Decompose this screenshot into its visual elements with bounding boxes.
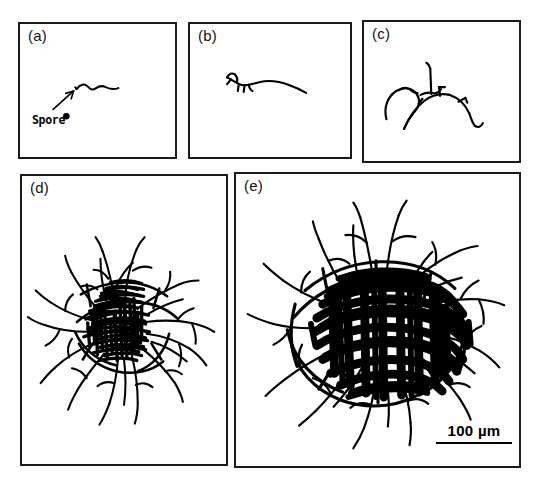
panel-a: (a) Spore [18,22,177,159]
scale-bar-label: 100 µm [448,422,501,439]
panel-c: (c) [362,20,521,163]
spore-annotation-label: Spore [32,113,65,127]
scale-bar-line [436,442,512,444]
panel-a-drawing [20,24,175,157]
panel-e: (e) [234,172,521,468]
panel-c-drawing [364,22,519,161]
scale-bar: 100 µm [436,422,512,444]
panel-b: (b) [188,22,352,159]
fungal-growth-figure: (a) Spore (b) [0,0,542,481]
panel-b-drawing [190,24,350,157]
panel-d: (d) [20,174,228,466]
panel-d-drawing [22,176,226,464]
